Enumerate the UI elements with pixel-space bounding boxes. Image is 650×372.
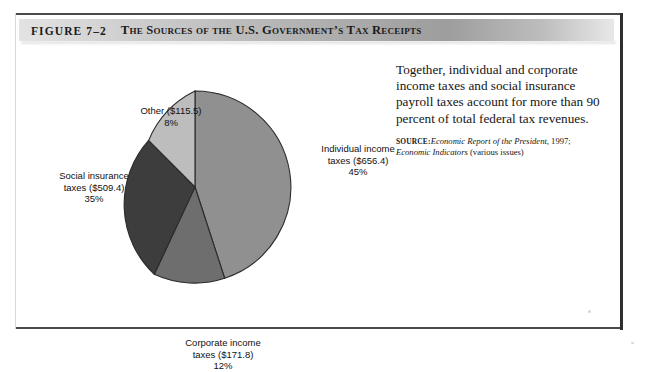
- header-band-shadow: [21, 41, 616, 44]
- page-title: The Sources of the U.S. Government’s Tax…: [121, 23, 422, 38]
- figure-frame-top-rule: [15, 13, 623, 15]
- figure-frame-bottom-rule: [15, 327, 623, 329]
- figure-header-text: Figure 7–2 The Sources of the U.S. Gover…: [31, 22, 422, 39]
- source-title-2: Economic Indicators: [396, 147, 468, 157]
- scan-speck: [631, 342, 634, 344]
- source-plain-2: (various issues): [468, 147, 524, 157]
- figure-frame-right-rule: [620, 13, 623, 330]
- source-title-1: Economic Report of the President,: [431, 136, 549, 146]
- source-note: Source:Economic Report of the President,…: [396, 136, 604, 158]
- figure-frame-left-rule: [15, 13, 16, 329]
- pie-chart-region: Other ($115.5) 8% Social insurance taxes…: [20, 48, 390, 326]
- scan-speck: [588, 310, 591, 313]
- pie-label-corporate-income: Corporate income taxes ($171.8) 12%: [148, 337, 298, 372]
- source-kicker: Source:: [396, 137, 431, 146]
- caption-body: Together, individual and corporate incom…: [396, 62, 604, 127]
- figure-number-label: Figure 7–2: [31, 25, 107, 37]
- pie-label-other: Other ($115.5) 8%: [116, 105, 226, 128]
- source-plain-1: 1997;: [549, 136, 571, 146]
- pie-label-social-insurance: Social insurance taxes ($509.4) 35%: [34, 170, 154, 205]
- caption-column: Together, individual and corporate incom…: [396, 62, 604, 158]
